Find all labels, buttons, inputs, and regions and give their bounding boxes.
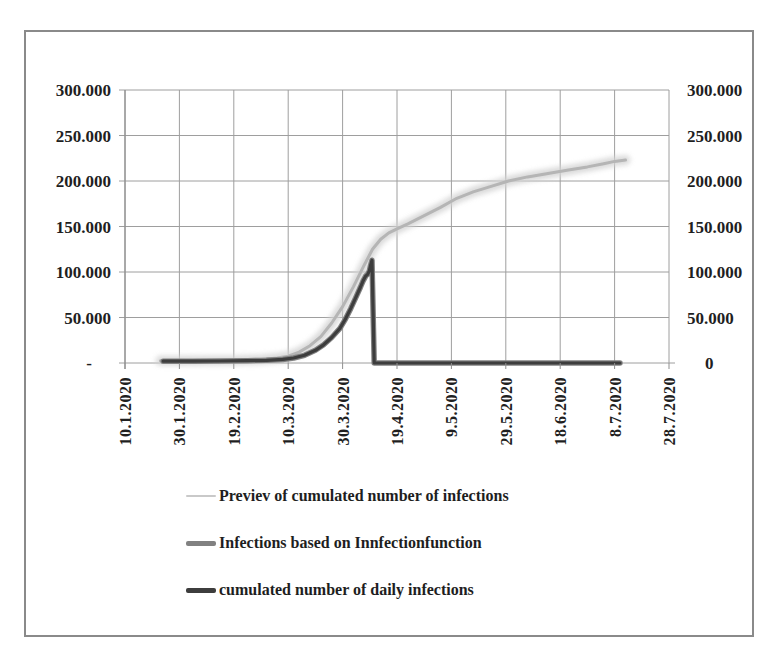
legend-label-infectionfunction: Infections based on Innfectionfunction <box>219 534 482 552</box>
legend-label-preview: Previev of cumulated number of infection… <box>219 487 509 505</box>
chart-legend: Previev of cumulated number of infection… <box>186 484 606 625</box>
x-axis-tick-label: 9.5.2020 <box>443 377 460 437</box>
x-axis-tick-label: 10.1.2020 <box>117 377 134 446</box>
y-axis-tick-label-left: 150.000 <box>56 218 111 237</box>
legend-item-daily-cumulated: cumulated number of daily infections <box>186 578 606 602</box>
chart-frame: 300.000300.000250.000250.000200.000200.0… <box>24 30 754 637</box>
x-axis-tick-label: 28.7.2020 <box>661 377 678 446</box>
y-axis-tick-label-left: - <box>86 354 92 373</box>
y-axis-tick-label-right: 50.000 <box>687 309 734 328</box>
y-axis-tick-label-left: 250.000 <box>56 127 111 146</box>
y-axis-tick-label-right: 250.000 <box>687 127 742 146</box>
daily-cumulated-line-swatch <box>186 588 216 593</box>
x-axis-tick-label: 19.4.2020 <box>389 377 406 446</box>
legend-item-preview: Previev of cumulated number of infection… <box>186 484 606 508</box>
series-infectionfunction-line <box>163 260 620 363</box>
y-axis-tick-label-left: 300.000 <box>56 81 111 100</box>
y-axis-tick-label-right: 100.000 <box>687 263 742 282</box>
series-preview-line <box>160 160 625 361</box>
x-axis-tick-label: 19.2.2020 <box>226 377 243 446</box>
preview-line-swatch <box>186 495 216 497</box>
series-preview-glow <box>160 160 625 361</box>
x-axis-tick-label: 10.3.2020 <box>280 377 297 446</box>
y-axis-tick-label-left: 100.000 <box>56 263 111 282</box>
y-axis-tick-label-right: 150.000 <box>687 218 742 237</box>
x-axis-tick-label: 29.5.2020 <box>498 377 515 446</box>
series-daily-cumulated-line <box>163 260 620 363</box>
y-axis-tick-label-left: 50.000 <box>64 309 111 328</box>
x-axis-tick-label: 18.6.2020 <box>552 377 569 446</box>
y-axis-tick-label-right: 0 <box>705 354 714 373</box>
y-axis-tick-label-right: 300.000 <box>687 81 742 100</box>
legend-label-daily-cumulated: cumulated number of daily infections <box>219 581 474 599</box>
legend-item-infectionfunction: Infections based on Innfectionfunction <box>186 531 606 555</box>
page-background: { "frame": { "border_color": "#8a8a8a", … <box>0 0 779 662</box>
x-axis-tick-label: 8.7.2020 <box>607 377 624 437</box>
y-axis-tick-label-right: 200.000 <box>687 172 742 191</box>
y-axis-tick-label-left: 200.000 <box>56 172 111 191</box>
x-axis-tick-label: 30.3.2020 <box>335 377 352 446</box>
series-layer <box>160 160 625 363</box>
infectionfunction-line-swatch <box>186 541 216 546</box>
x-axis-tick-label: 30.1.2020 <box>171 377 188 446</box>
